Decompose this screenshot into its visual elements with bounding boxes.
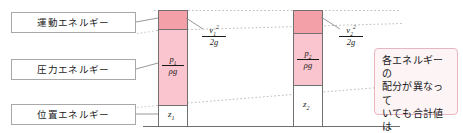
bar-1-velocity-head-numerator: v12 bbox=[202, 26, 226, 37]
sidebar-item-pressure-energy[interactable]: 圧力エネルギー bbox=[11, 59, 136, 80]
bar-1-pressure-head-numerator: p1 bbox=[162, 55, 184, 66]
bar-1-velocity-head-formula: v12 2g bbox=[202, 26, 226, 46]
leader-line-pressure bbox=[136, 63, 158, 69]
bar-1-pressure-head-denominator: ρg bbox=[162, 66, 184, 76]
label-pressure-energy: 圧力エネルギー bbox=[37, 65, 109, 75]
bar-2-elevation-head-label: z2 bbox=[303, 100, 310, 109]
leader-line-bar-2-velocity-head bbox=[321, 17, 340, 29]
bar-2-pressure-head-denominator: ρg bbox=[297, 60, 319, 70]
bar-1-velocity-head-segment bbox=[159, 11, 188, 30]
label-potential-energy: 位置エネルギー bbox=[37, 110, 109, 120]
piezometric-guide-dashed bbox=[157, 24, 403, 31]
elevation-guide-dashed bbox=[157, 86, 403, 106]
bar-1-elevation-head-label: z1 bbox=[168, 110, 175, 119]
note-line-2: 配分が異なって bbox=[382, 80, 451, 106]
bar-2-velocity-head-formula: v22 2g bbox=[339, 26, 363, 46]
elevation-guide-left-extension bbox=[137, 106, 158, 108]
bar-1-velocity-head-denominator: 2g bbox=[202, 37, 226, 47]
bar-2-velocity-head-segment bbox=[294, 11, 323, 34]
bernoulli-energy-diagram: 運動エネルギー 圧力エネルギー 位置エネルギー p1 ρg z1 v12 2g … bbox=[0, 0, 463, 133]
sidebar-item-potential-energy[interactable]: 位置エネルギー bbox=[11, 104, 136, 125]
piezometric-guide-left-extension bbox=[137, 31, 158, 34]
note-callout: 各エネルギーの 配分が異なって いても合計値は 同じになる bbox=[374, 48, 458, 115]
leader-line-kinetic bbox=[136, 18, 158, 22]
label-kinetic-energy: 運動エネルギー bbox=[37, 18, 109, 28]
leader-line-bar-1-velocity-head bbox=[186, 18, 203, 29]
note-line-3: いても合計値は bbox=[382, 107, 451, 133]
bar-1-pressure-head-formula: p1 ρg bbox=[162, 55, 184, 75]
bar-2-pressure-head-formula: p2 ρg bbox=[297, 49, 319, 69]
sidebar-item-kinetic-energy[interactable]: 運動エネルギー bbox=[11, 12, 136, 33]
bar-2-velocity-head-numerator: v22 bbox=[339, 26, 363, 37]
bar-2-pressure-head-numerator: p2 bbox=[297, 49, 319, 60]
bar-2-velocity-head-denominator: 2g bbox=[339, 37, 363, 47]
note-line-1: 各エネルギーの bbox=[382, 54, 451, 80]
